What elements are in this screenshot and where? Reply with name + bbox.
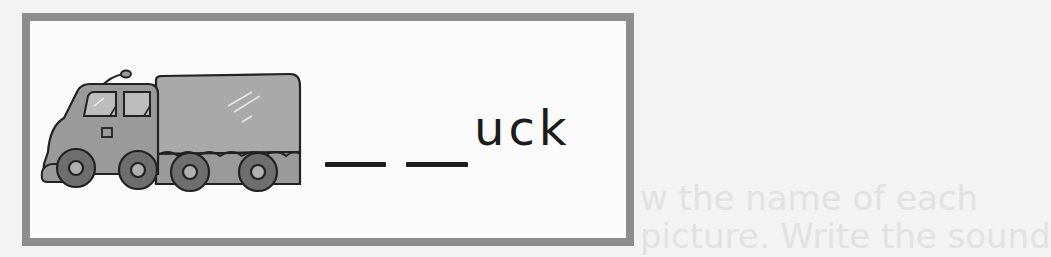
letter-blank-1[interactable] [325,162,386,167]
word-suffix: uck [474,104,571,152]
bleed-through-text-line-2: picture. Write the sound [640,216,1051,256]
truck-icon [38,66,308,196]
letter-blank-2[interactable] [406,162,468,167]
bleed-through-text-line-1: w the name of each [640,178,978,218]
